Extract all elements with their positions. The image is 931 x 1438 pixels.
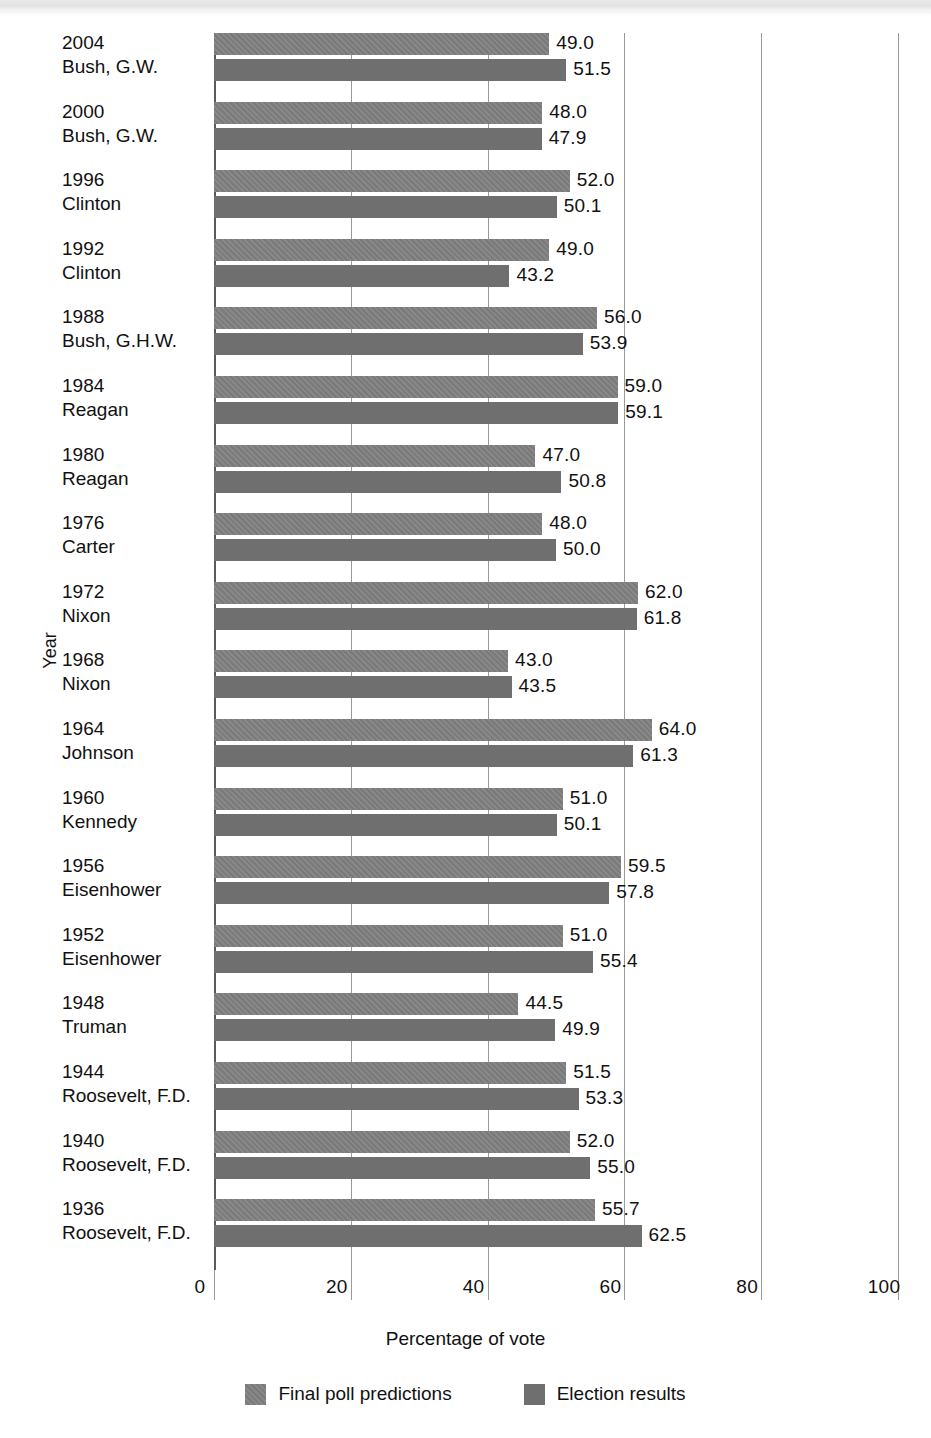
group-year-label: 2004 bbox=[62, 31, 212, 55]
bar-value-label: 59.1 bbox=[625, 401, 663, 423]
group-candidate-label: Roosevelt, F.D. bbox=[62, 1221, 212, 1245]
group-label: 1984Reagan bbox=[62, 374, 212, 422]
bar-final-poll-prediction bbox=[214, 1062, 566, 1084]
bar-value-label: 61.8 bbox=[644, 607, 682, 629]
legend-label: Final poll predictions bbox=[278, 1383, 451, 1405]
chart-group: 1948Truman44.549.9 bbox=[0, 993, 931, 1041]
bar-row: 50.8 bbox=[214, 471, 914, 493]
bar-value-label: 49.0 bbox=[556, 238, 594, 260]
group-year-label: 1936 bbox=[62, 1197, 212, 1221]
bar-election-result bbox=[214, 882, 609, 904]
group-label: 1936Roosevelt, F.D. bbox=[62, 1197, 212, 1245]
bar-row: 50.0 bbox=[214, 539, 914, 561]
bar-row: 47.9 bbox=[214, 128, 914, 150]
bar-value-label: 56.0 bbox=[604, 306, 642, 328]
bar-election-result bbox=[214, 676, 512, 698]
chart-group: 1984Reagan59.059.1 bbox=[0, 376, 931, 424]
bar-row: 62.0 bbox=[214, 582, 914, 604]
bar-row: 62.5 bbox=[214, 1225, 914, 1247]
group-label: 1980Reagan bbox=[62, 443, 212, 491]
group-candidate-label: Clinton bbox=[62, 192, 212, 216]
bar-final-poll-prediction bbox=[214, 582, 638, 604]
group-label: 1956Eisenhower bbox=[62, 854, 212, 902]
bar-value-label: 53.3 bbox=[586, 1087, 624, 1109]
x-tick-label-0: 0 bbox=[195, 1276, 206, 1298]
bar-final-poll-prediction bbox=[214, 719, 652, 741]
legend-swatch-election-results bbox=[524, 1384, 545, 1405]
bar-value-label: 51.5 bbox=[573, 1061, 611, 1083]
bar-value-label: 62.5 bbox=[649, 1224, 687, 1246]
x-tick-label-80: 80 bbox=[736, 1276, 758, 1298]
legend-item: Final poll predictions bbox=[245, 1383, 451, 1405]
bar-row: 55.7 bbox=[214, 1199, 914, 1221]
group-year-label: 1996 bbox=[62, 168, 212, 192]
bar-value-label: 51.0 bbox=[570, 924, 608, 946]
bar-value-label: 64.0 bbox=[659, 718, 697, 740]
bar-row: 51.5 bbox=[214, 1062, 914, 1084]
bar-row: 56.0 bbox=[214, 307, 914, 329]
bar-election-result bbox=[214, 1225, 642, 1247]
group-label: 1992Clinton bbox=[62, 237, 212, 285]
group-year-label: 1948 bbox=[62, 991, 212, 1015]
bar-row: 59.1 bbox=[214, 402, 914, 424]
bar-row: 51.5 bbox=[214, 59, 914, 81]
chart-group: 2000Bush, G.W.48.047.9 bbox=[0, 102, 931, 150]
bar-value-label: 59.0 bbox=[625, 375, 663, 397]
bar-value-label: 59.5 bbox=[628, 855, 666, 877]
group-label: 1952Eisenhower bbox=[62, 923, 212, 971]
bar-value-label: 47.9 bbox=[549, 127, 587, 149]
group-candidate-label: Clinton bbox=[62, 261, 212, 285]
bar-election-result bbox=[214, 608, 637, 630]
bar-value-label: 43.2 bbox=[516, 264, 554, 286]
bar-election-result bbox=[214, 128, 542, 150]
group-candidate-label: Nixon bbox=[62, 672, 212, 696]
group-candidate-label: Eisenhower bbox=[62, 947, 212, 971]
legend-swatch-final-poll-predictions bbox=[245, 1384, 266, 1405]
group-label: 2000Bush, G.W. bbox=[62, 100, 212, 148]
group-candidate-label: Carter bbox=[62, 535, 212, 559]
bar-value-label: 55.0 bbox=[597, 1156, 635, 1178]
bar-final-poll-prediction bbox=[214, 170, 570, 192]
chart-group: 1936Roosevelt, F.D.55.762.5 bbox=[0, 1199, 931, 1247]
bar-final-poll-prediction bbox=[214, 33, 549, 55]
y-axis-title: Year bbox=[40, 591, 61, 711]
bar-final-poll-prediction bbox=[214, 788, 563, 810]
bar-final-poll-prediction bbox=[214, 376, 618, 398]
group-year-label: 1968 bbox=[62, 648, 212, 672]
x-tick-label-60: 60 bbox=[600, 1276, 622, 1298]
group-candidate-label: Reagan bbox=[62, 467, 212, 491]
x-tick-label-100: 100 bbox=[868, 1276, 901, 1298]
chart-group: 1976Carter48.050.0 bbox=[0, 513, 931, 561]
chart-group: 1960Kennedy51.050.1 bbox=[0, 788, 931, 836]
group-candidate-label: Eisenhower bbox=[62, 878, 212, 902]
group-label: 2004Bush, G.W. bbox=[62, 31, 212, 79]
bar-election-result bbox=[214, 1157, 590, 1179]
chart-group: 1968Nixon43.043.5 bbox=[0, 650, 931, 698]
tick-stub-40 bbox=[488, 1270, 489, 1300]
bar-value-label: 48.0 bbox=[549, 101, 587, 123]
group-label: 1996Clinton bbox=[62, 168, 212, 216]
bar-chart: 020406080100 2004Bush, G.W.49.051.52000B… bbox=[0, 0, 931, 1438]
bar-election-result bbox=[214, 745, 633, 767]
bar-final-poll-prediction bbox=[214, 307, 597, 329]
group-candidate-label: Roosevelt, F.D. bbox=[62, 1153, 212, 1177]
bar-final-poll-prediction bbox=[214, 925, 563, 947]
bar-row: 52.0 bbox=[214, 170, 914, 192]
bar-value-label: 62.0 bbox=[645, 581, 683, 603]
x-tick-label-20: 20 bbox=[326, 1276, 348, 1298]
bar-row: 52.0 bbox=[214, 1131, 914, 1153]
bar-value-label: 55.7 bbox=[602, 1198, 640, 1220]
bar-final-poll-prediction bbox=[214, 239, 549, 261]
bar-value-label: 51.0 bbox=[570, 787, 608, 809]
bar-final-poll-prediction bbox=[214, 993, 518, 1015]
chart-group: 1980Reagan47.050.8 bbox=[0, 445, 931, 493]
tick-stub-20 bbox=[351, 1270, 352, 1300]
bar-value-label: 57.8 bbox=[616, 881, 654, 903]
bar-value-label: 48.0 bbox=[549, 512, 587, 534]
bar-row: 57.8 bbox=[214, 882, 914, 904]
group-candidate-label: Kennedy bbox=[62, 810, 212, 834]
bar-election-result bbox=[214, 1019, 555, 1041]
bar-final-poll-prediction bbox=[214, 856, 621, 878]
bar-row: 64.0 bbox=[214, 719, 914, 741]
bar-row: 61.8 bbox=[214, 608, 914, 630]
